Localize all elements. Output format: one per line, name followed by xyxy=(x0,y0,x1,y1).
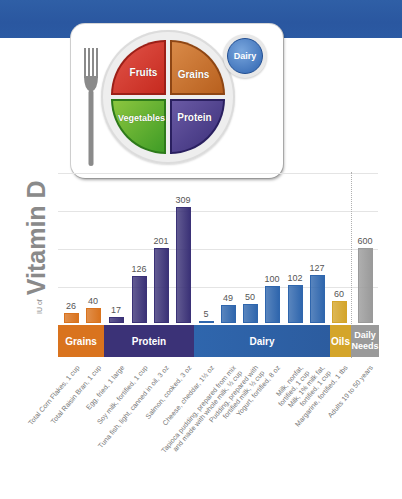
bar xyxy=(64,313,79,323)
gridline xyxy=(58,211,378,212)
bar-value-label: 17 xyxy=(101,305,131,315)
band-dairy: Dairy xyxy=(194,325,330,357)
bar xyxy=(288,285,303,323)
gridline xyxy=(58,249,378,250)
bar xyxy=(310,275,325,323)
bar xyxy=(86,308,101,323)
bar xyxy=(243,304,258,323)
bar-value-label: 102 xyxy=(280,273,310,283)
gridline xyxy=(58,173,378,174)
band-protein: Protein xyxy=(104,325,194,357)
x-axis-label: Adults 19 to 50 years xyxy=(326,364,374,420)
bar-value-label: 127 xyxy=(302,263,332,273)
plate-fruits: Fruits xyxy=(111,40,166,95)
plate: Fruits Grains Vegetables Protein xyxy=(101,30,235,164)
dairy-cup: Dairy xyxy=(223,34,267,78)
y-axis-unit: IU of xyxy=(36,299,43,314)
bar xyxy=(221,305,236,323)
fork-icon xyxy=(82,48,100,166)
y-axis-title: Vitamin D xyxy=(22,180,50,295)
plate-grains: Grains xyxy=(170,40,225,95)
plate-dairy: Dairy xyxy=(227,38,263,74)
bar xyxy=(199,321,214,323)
plate-vegetables: Vegetables xyxy=(111,99,166,154)
band-oils: Oils xyxy=(330,325,351,357)
band-daily-needs: Daily Needs xyxy=(351,325,379,357)
bar xyxy=(132,276,147,323)
bar-value-label: 50 xyxy=(235,292,265,302)
bar-value-label: 60 xyxy=(324,289,354,299)
bar xyxy=(109,317,124,323)
bar-value-label: 5 xyxy=(191,309,221,319)
bar xyxy=(358,248,373,323)
bar xyxy=(154,248,169,323)
bar-value-label: 600 xyxy=(350,236,380,246)
bar xyxy=(265,286,280,324)
bar-value-label: 309 xyxy=(168,195,198,205)
bar-value-label: 201 xyxy=(146,236,176,246)
plate-protein: Protein xyxy=(170,99,225,154)
bar-value-label: 126 xyxy=(124,264,154,274)
myplate-card: Fruits Grains Vegetables Protein Dairy xyxy=(71,24,283,178)
bar xyxy=(176,207,191,323)
band-grains: Grains xyxy=(58,325,104,357)
y-axis-label: IU ofVitamin D xyxy=(22,180,51,314)
bar xyxy=(332,301,347,324)
